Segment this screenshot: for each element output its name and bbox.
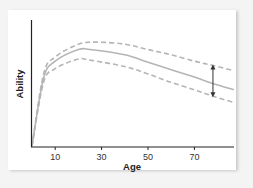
spread-double-arrow xyxy=(210,64,215,97)
x-tick-label: 30 xyxy=(97,152,107,162)
x-tick-label: 70 xyxy=(189,152,199,162)
x-ticks: 10305070 xyxy=(50,147,199,162)
x-tick-label: 10 xyxy=(50,152,60,162)
x-tick-label: 50 xyxy=(143,152,153,162)
series-line-lower-bound xyxy=(32,58,234,146)
y-axis-title: Ability xyxy=(14,69,25,99)
line-chart: 10305070 Age Ability xyxy=(0,0,253,188)
x-axis-title: Age xyxy=(123,161,141,172)
series-layer xyxy=(32,42,234,146)
